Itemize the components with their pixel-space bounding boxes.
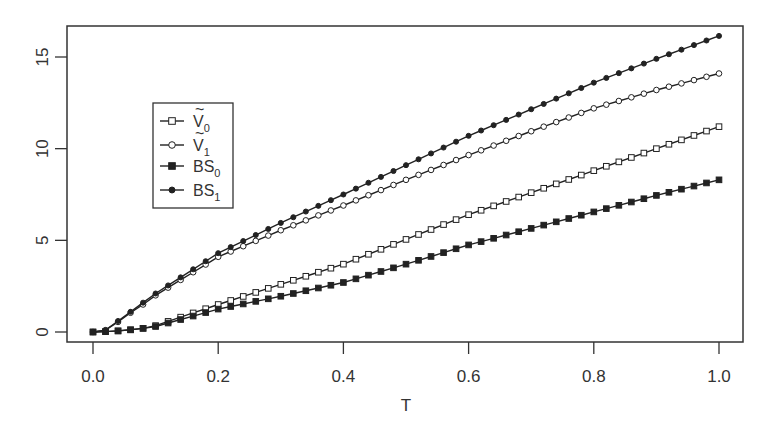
circle-marker [116,318,121,323]
square-marker [403,237,409,243]
circle-marker [516,112,521,117]
circle-marker [691,43,696,48]
circle-marker [378,174,383,179]
square-marker [278,282,284,288]
square-marker [679,186,685,192]
circle-marker [641,61,646,66]
circle-marker [353,186,358,191]
circle-marker [441,145,446,150]
circle-marker [216,251,221,256]
circle-marker [90,329,95,334]
circle-marker [241,239,246,244]
square-marker [566,177,572,183]
square-marker [516,194,522,200]
circle-marker [378,187,384,193]
square-marker [541,185,547,191]
circle-marker [428,167,434,173]
square-marker [553,219,559,225]
circle-marker [666,52,671,57]
circle-marker [328,198,333,203]
square-marker [240,301,246,307]
circle-marker [191,267,196,272]
circle-marker [353,198,359,204]
square-marker [303,273,309,279]
circle-marker [466,133,471,138]
square-marker [716,124,722,130]
circle-marker [366,192,372,198]
circle-marker [554,96,559,101]
square-marker [366,251,372,257]
line-chart: 051015 0.00.20.40.60.81.0 T V0~V1~BS0BS1 [0,0,762,433]
square-marker [616,203,622,209]
square-marker [303,288,309,294]
square-marker [403,261,409,267]
y-axis: 051015 [33,48,67,337]
circle-marker [466,152,472,158]
square-marker [578,212,584,218]
circle-marker [278,220,283,225]
square-marker [641,150,647,156]
square-marker [591,168,597,174]
square-marker [169,163,176,170]
square-marker [291,291,297,297]
circle-marker [416,157,421,162]
square-marker [654,146,660,152]
circle-marker [391,169,396,174]
circle-marker [341,192,346,197]
square-marker [503,232,509,238]
circle-marker [328,208,334,214]
circle-marker [704,38,709,43]
circle-marker [529,107,534,112]
square-marker [453,246,459,252]
square-marker [491,236,497,242]
square-marker [353,256,359,262]
square-marker [553,181,559,187]
circle-marker [341,203,347,209]
square-marker [629,155,635,161]
square-marker [566,216,572,222]
square-marker [316,285,322,291]
square-marker [666,141,672,147]
square-marker [391,265,397,271]
square-marker [378,269,384,275]
circle-marker [265,233,271,239]
circle-marker [141,300,146,305]
square-marker [253,299,259,305]
x-tick-label: 1.0 [707,367,731,386]
square-marker [169,118,176,125]
y-tick-label: 10 [33,139,52,158]
circle-marker [169,187,175,193]
circle-marker [654,87,660,93]
y-tick-label: 5 [33,236,52,245]
square-marker [328,282,334,288]
circle-marker [578,110,584,116]
circle-marker [516,133,522,139]
circle-marker [591,80,596,85]
square-marker [541,222,547,228]
square-marker [578,172,584,178]
circle-marker [303,218,309,224]
circle-marker [666,84,672,90]
circle-marker [566,91,571,96]
square-marker [228,304,234,310]
square-marker [716,177,722,183]
square-marker [178,317,184,323]
circle-marker [240,243,246,249]
circle-marker [716,71,722,77]
square-marker [316,269,322,275]
square-marker [416,258,422,264]
circle-marker [629,95,635,101]
circle-marker [541,124,547,130]
square-marker [629,199,635,205]
square-marker [153,324,159,330]
circle-marker [441,162,447,168]
circle-marker [103,328,108,333]
circle-marker [691,77,697,83]
square-marker [265,296,271,302]
circle-marker [366,180,371,185]
x-axis-title: T [401,396,411,415]
circle-marker [553,119,559,125]
circle-marker [391,182,397,188]
circle-marker [228,245,233,250]
square-marker [416,232,422,238]
